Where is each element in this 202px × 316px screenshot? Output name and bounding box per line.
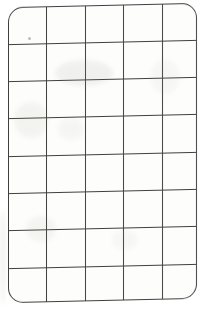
grid-cell — [124, 5, 163, 42]
grid-cell — [86, 79, 124, 117]
grid-cell — [124, 153, 163, 191]
grid-cell — [9, 193, 47, 231]
grid-cell — [86, 228, 124, 267]
grid-cell — [86, 191, 124, 229]
grid-cell — [124, 78, 163, 116]
grid-cell — [86, 266, 124, 300]
grid-cell — [163, 152, 197, 190]
grid-cell — [86, 42, 124, 80]
grid-cell — [47, 229, 86, 268]
grid-cell — [124, 227, 163, 266]
grid-cell — [163, 189, 197, 227]
grid-cell — [9, 156, 47, 194]
grid-cell — [47, 155, 86, 193]
grid-cell — [47, 192, 86, 230]
grid-cell — [9, 7, 47, 44]
grid-cell — [86, 116, 124, 155]
grid-cell — [124, 41, 163, 79]
grid-cell — [124, 115, 163, 154]
grid-cell — [9, 118, 47, 157]
pencil-smudge — [0, 210, 6, 305]
grid-cell — [9, 268, 47, 302]
grid-cell — [9, 230, 47, 269]
grid-cell — [86, 154, 124, 192]
grid-cell — [163, 226, 197, 265]
grid-cell — [163, 40, 197, 78]
grid-cell — [124, 190, 163, 228]
grid-cell — [47, 80, 86, 118]
grid-cell — [47, 43, 86, 81]
grid-cell — [47, 117, 86, 156]
grid-cell — [9, 44, 47, 82]
grid-cell — [124, 265, 163, 299]
grid-cell — [163, 4, 197, 41]
grid-cell — [47, 267, 86, 301]
scanned-page — [0, 0, 202, 316]
grid-cell — [163, 114, 197, 153]
grid-cell — [163, 77, 197, 115]
grid-cell — [47, 6, 86, 43]
grid-cell — [163, 264, 197, 298]
grid-card — [8, 3, 197, 303]
grid-cell — [9, 81, 47, 119]
grid-cell — [86, 6, 124, 43]
